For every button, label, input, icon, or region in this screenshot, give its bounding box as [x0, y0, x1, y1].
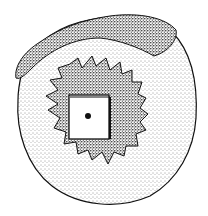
disc-illustration — [0, 0, 208, 216]
center-dot — [85, 113, 91, 119]
square-hole — [69, 95, 110, 139]
